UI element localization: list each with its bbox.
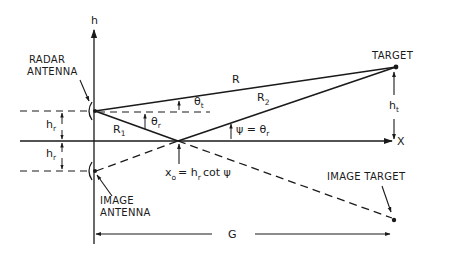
svg-text:ψ = θr: ψ = θr	[236, 123, 270, 138]
theta-r-angle: θr	[145, 114, 162, 130]
path-r2: R2	[178, 67, 396, 141]
image-antenna-icon	[89, 162, 92, 180]
svg-text:ANTENNA: ANTENNA	[27, 66, 78, 77]
h-axis-label: h	[91, 14, 98, 27]
svg-text:xo= hrcot ψ: xo= hrcot ψ	[165, 166, 231, 182]
psi-angle: ψ = θr	[231, 123, 270, 139]
svg-text:IMAGE: IMAGE	[100, 195, 134, 206]
svg-text:hr: hr	[46, 147, 57, 162]
svg-text:θr: θr	[151, 115, 162, 130]
radar-antenna-label: RADAR ANTENNA	[27, 54, 89, 101]
target-label: TARGET	[371, 50, 414, 61]
svg-text:θt: θt	[194, 95, 204, 110]
svg-text:hr: hr	[46, 118, 57, 133]
radar-antenna-icon	[89, 102, 92, 120]
svg-text:ANTENNA: ANTENNA	[100, 207, 151, 218]
multipath-geometry-diagram: h X RADAR ANTENNA IMAGE ANTENNA R R1 R2	[0, 0, 451, 256]
target-point	[394, 65, 399, 70]
x-axis-label: X	[397, 135, 405, 148]
direct-path-r: R	[95, 67, 396, 111]
radar-height-dimension: hr	[46, 113, 62, 139]
reflection-point-label: xo= hrcot ψ	[165, 144, 231, 182]
image-antenna-label: IMAGE ANTENNA	[97, 175, 151, 218]
image-target-point	[392, 218, 396, 222]
svg-text:RADAR: RADAR	[29, 54, 65, 65]
svg-text:R1: R1	[113, 123, 126, 138]
svg-text:R: R	[232, 73, 240, 86]
image-target-label: IMAGE TARGET	[327, 171, 406, 182]
path-r1: R1	[95, 111, 178, 141]
svg-text:R2: R2	[257, 91, 270, 107]
ground-range-dimension: G	[96, 228, 390, 241]
svg-text:ht: ht	[389, 99, 399, 114]
x-axis: X	[20, 135, 405, 148]
svg-text:G: G	[228, 228, 237, 241]
target-height-dimension: ht	[389, 72, 399, 139]
h-axis: h	[91, 14, 98, 244]
image-height-dimension: hr	[46, 143, 62, 169]
